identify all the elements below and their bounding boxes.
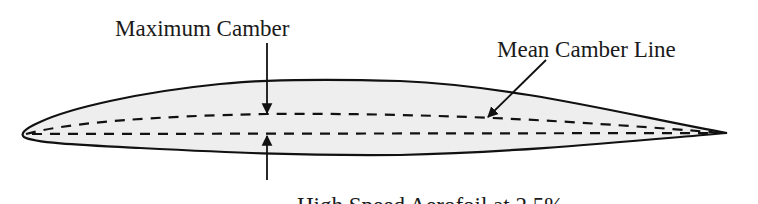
maximum-camber-label: Maximum Camber [115, 17, 289, 40]
airfoil-outline [23, 80, 727, 155]
mean-camber-line-label: Mean Camber Line [497, 38, 676, 61]
caption-label: High Speed Aerofoil at 2.5% [297, 194, 563, 204]
airfoil-drawing [0, 0, 758, 204]
airfoil-diagram: Maximum Camber Mean Camber Line High Spe… [0, 0, 758, 204]
